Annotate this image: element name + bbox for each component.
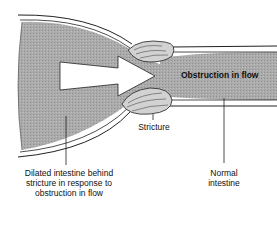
dilated-label-line-3: obstruction in flow	[14, 188, 124, 198]
normal-intestine-label: Normal intestine	[202, 168, 246, 188]
obstruction-label: Obstruction in flow	[181, 70, 258, 80]
dilated-label-line-1: Dilated intestine behind	[14, 168, 124, 178]
normal-label-line-2: intestine	[202, 178, 246, 188]
dilated-label-line-2: stricture in response to	[14, 178, 124, 188]
stricture-label: Stricture	[133, 122, 175, 132]
normal-label-line-1: Normal	[202, 168, 246, 178]
normal-wall-top-outer	[170, 46, 277, 47]
dilated-intestine-label: Dilated intestine behind stricture in re…	[14, 168, 124, 198]
